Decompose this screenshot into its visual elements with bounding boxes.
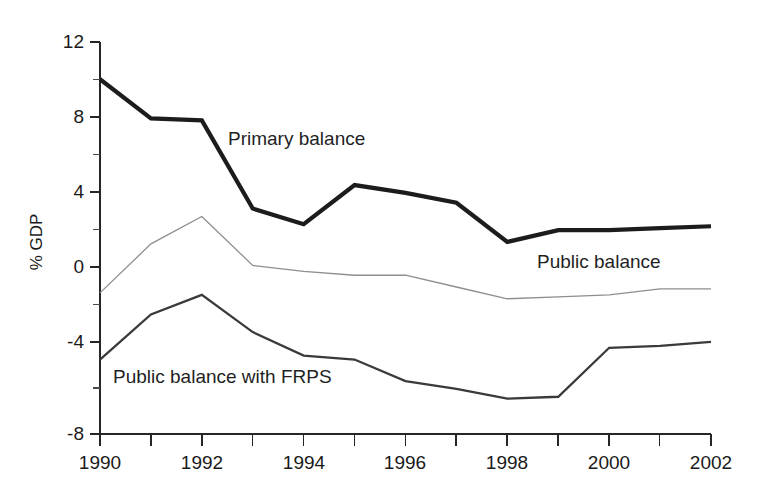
x-tick-label-2000: 2000	[567, 452, 651, 474]
series-line-primary-balance	[100, 79, 711, 242]
x-axis-ticks	[100, 434, 711, 446]
x-tick-label-1990: 1990	[58, 452, 142, 474]
x-tick-label-1998: 1998	[465, 452, 549, 474]
series-annotation-public-balance-frps: Public balance with FRPS	[113, 366, 332, 388]
chart-container: 12 8 4 0 -4 -8 % GDP 1990 1992 1994 1996…	[0, 0, 766, 502]
y-tick-label-neg4: -4	[36, 331, 84, 353]
series-annotation-public-balance: Public balance	[537, 251, 661, 273]
y-tick-label-4: 4	[36, 181, 84, 203]
x-tick-label-1996: 1996	[363, 452, 447, 474]
y-axis-title: % GDP	[27, 202, 47, 282]
x-tick-label-1992: 1992	[160, 452, 244, 474]
y-tick-label-8: 8	[36, 106, 84, 128]
x-tick-label-2002: 2002	[669, 452, 753, 474]
x-tick-label-1994: 1994	[262, 452, 346, 474]
y-axis-major-ticks	[90, 42, 100, 434]
y-tick-label-12: 12	[36, 31, 84, 53]
y-tick-label-neg8: -8	[36, 423, 84, 445]
series-annotation-primary-balance: Primary balance	[228, 128, 365, 150]
